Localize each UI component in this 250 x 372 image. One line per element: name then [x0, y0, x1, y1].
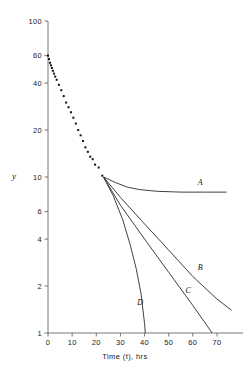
- data-point: [51, 67, 53, 69]
- y-axis-label: y: [12, 171, 16, 181]
- y-tick-label: 2: [38, 282, 42, 291]
- y-tick-label: 60: [33, 51, 42, 60]
- data-point: [49, 62, 51, 64]
- data-point: [53, 73, 55, 75]
- data-point: [77, 129, 79, 131]
- data-point: [82, 140, 84, 142]
- y-tick-label: 40: [33, 79, 42, 88]
- data-point: [72, 117, 74, 119]
- data-point: [54, 76, 56, 78]
- y-tick-label: 4: [38, 235, 42, 244]
- x-tick-label: 40: [139, 338, 151, 347]
- data-series: [47, 55, 231, 333]
- x-tick-label: 30: [114, 338, 126, 347]
- data-point: [84, 146, 86, 148]
- curve-label-C: C: [186, 286, 191, 295]
- curve-A: [104, 177, 227, 192]
- y-tick-label: 100: [29, 17, 42, 26]
- y-tick-label: 6: [38, 207, 42, 216]
- data-point: [68, 106, 70, 108]
- data-point: [94, 164, 96, 166]
- curve-B: [104, 177, 232, 310]
- x-tick-label: 50: [163, 338, 175, 347]
- data-point: [87, 151, 89, 153]
- x-tick-label: 0: [42, 338, 54, 347]
- curve-label-A: A: [198, 178, 203, 187]
- data-point: [47, 55, 49, 57]
- curve-D: [104, 177, 146, 333]
- curve-label-B: B: [198, 263, 203, 272]
- figure-container: y Time (t), hrs 124610204060100010203040…: [0, 0, 250, 372]
- data-point: [58, 84, 60, 86]
- data-point: [60, 89, 62, 91]
- data-point: [80, 134, 82, 136]
- tick-marks: [45, 21, 218, 337]
- y-tick-label: 10: [33, 173, 42, 182]
- data-point: [89, 156, 91, 158]
- data-point: [70, 111, 72, 113]
- x-axis-label: Time (t), hrs: [0, 352, 250, 361]
- x-tick-label: 70: [211, 338, 223, 347]
- data-point: [65, 102, 67, 104]
- axes: [48, 21, 243, 333]
- curve-C: [104, 177, 213, 333]
- data-point: [52, 70, 54, 72]
- data-point: [75, 123, 77, 125]
- data-point: [50, 64, 52, 66]
- data-point: [48, 58, 50, 60]
- x-tick-label: 20: [90, 338, 102, 347]
- data-point: [92, 158, 94, 160]
- x-tick-label: 60: [187, 338, 199, 347]
- data-point: [101, 175, 103, 177]
- data-point: [98, 167, 100, 169]
- y-tick-label: 20: [33, 126, 42, 135]
- data-point: [63, 95, 65, 97]
- curve-label-D: D: [137, 298, 143, 307]
- data-point: [56, 79, 58, 81]
- y-tick-label: 1: [38, 329, 42, 338]
- x-tick-label: 10: [66, 338, 78, 347]
